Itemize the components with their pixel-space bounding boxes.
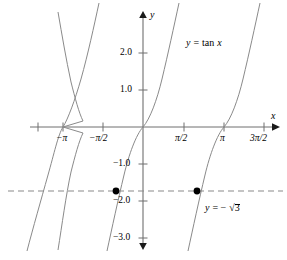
x-tick-label-neg-pi-over-2: −π/2	[89, 134, 108, 144]
curve-label-tan: tan	[202, 37, 214, 48]
y-tick-label-neg-1: −1.0	[113, 159, 130, 169]
tangent-branch-left-final-path	[27, 3, 99, 251]
curve-label-y: y	[186, 37, 190, 48]
x-tick-label-neg-pi: −π	[56, 134, 67, 144]
y-tick-label-2: 2.0	[120, 48, 132, 58]
dashed-label-y: y	[205, 202, 209, 213]
y-tick-label-neg-2: −2.0	[113, 196, 130, 206]
y-tick-label-1: 1.0	[120, 85, 132, 95]
x-tick-label-pi: π	[220, 134, 225, 144]
x-tick-label-3pi-over-2: 3π/2	[250, 134, 267, 144]
tangent-function-graph: −π −π/2 π/2 π 3π/2 2.0 1.0 −1.0 −2.0 −3.…	[0, 0, 287, 260]
y-tick-label-neg-3: −3.0	[113, 233, 130, 243]
left-branch-final-layer	[0, 0, 287, 260]
curve-equation-label: y=tanx	[186, 38, 222, 48]
dashed-line-equation-label: y= −√3	[205, 203, 240, 213]
curve-label-equals: =	[193, 37, 199, 48]
x-axis-label: x	[271, 111, 275, 121]
square-root-symbol: √3	[229, 203, 240, 213]
y-axis-label: y	[150, 10, 154, 20]
x-tick-label-pi-over-2: π/2	[175, 134, 187, 144]
dashed-label-equals: = −	[212, 202, 226, 213]
curve-label-x: x	[217, 37, 221, 48]
